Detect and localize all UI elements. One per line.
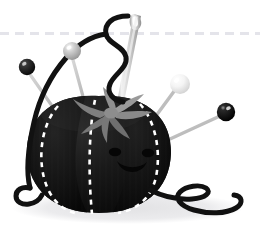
eye-left bbox=[109, 148, 121, 156]
pin-gray-upper-middle bbox=[63, 42, 81, 60]
thread-bottom-left-curl bbox=[16, 187, 42, 204]
calyx-center bbox=[104, 108, 118, 119]
eye-right bbox=[142, 149, 154, 157]
pin-dark-upper-left bbox=[19, 59, 35, 75]
pin-white-upper-right bbox=[170, 74, 190, 94]
tomato-pincushion-illustration bbox=[0, 0, 260, 240]
pin-black-right bbox=[217, 103, 235, 121]
pin-shaft-black-right bbox=[170, 116, 220, 139]
illustration-canvas: Illustration of a dark tomato-shaped pin… bbox=[0, 0, 260, 240]
